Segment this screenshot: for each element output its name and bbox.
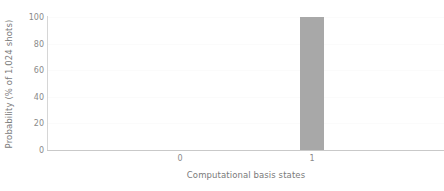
- y-axis-tick-labels: 020406080100: [16, 0, 44, 191]
- bar-chart-figure: Probability (% of 1,024 shots) 020406080…: [0, 0, 444, 191]
- y-tick-label: 40: [18, 92, 44, 101]
- x-axis-spine: [47, 150, 444, 151]
- y-tick-label: 0: [18, 146, 44, 155]
- y-tick-label: 80: [18, 39, 44, 48]
- y-tick-label: 100: [18, 13, 44, 22]
- bar-series: [48, 17, 444, 150]
- y-tick-label: 60: [18, 66, 44, 75]
- x-axis-title: Computational basis states: [48, 170, 444, 180]
- y-tick-label: 20: [18, 119, 44, 128]
- x-axis-tick-labels: 01: [48, 154, 444, 168]
- x-tick-label: 1: [292, 154, 332, 163]
- x-tick-label: 0: [160, 154, 200, 163]
- bar: [300, 17, 324, 150]
- y-axis-title: Probability (% of 1,024 shots): [2, 8, 16, 160]
